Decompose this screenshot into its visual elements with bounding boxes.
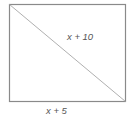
rectangle-diagram: x + 10 x + 5 <box>0 0 130 122</box>
diagonal-length-label: x + 10 <box>67 32 93 42</box>
bottom-side-length-label: x + 5 <box>46 106 67 116</box>
diagonal-line <box>10 5 126 102</box>
rectangle-diagonal-svg <box>0 0 130 122</box>
